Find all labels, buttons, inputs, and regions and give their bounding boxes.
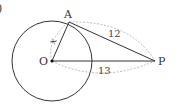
label-a: A [63, 8, 73, 21]
corner-mark: ) [0, 2, 2, 15]
tangent-diagram: ) A O P x 12 13 [0, 0, 176, 105]
measure-op: 13 [98, 65, 111, 76]
label-o: O [39, 55, 48, 68]
measure-ap: 12 [108, 28, 121, 39]
center-dot [50, 59, 53, 62]
measure-oa: x [46, 36, 58, 46]
label-p: P [158, 55, 166, 68]
